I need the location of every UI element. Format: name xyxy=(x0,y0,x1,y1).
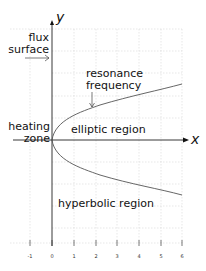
x-axis-label: x xyxy=(191,132,199,146)
x-tick-label: 0 xyxy=(50,253,53,259)
x-tick-label: 3 xyxy=(115,253,118,259)
hyperbolic-region-label: hyperbolic region xyxy=(58,198,154,210)
resonance-label-line2: frequency xyxy=(86,80,141,92)
x-tick-label: -1 xyxy=(28,253,33,259)
x-tick-label: 6 xyxy=(180,253,183,259)
x-tick-label: 5 xyxy=(159,253,162,259)
flux-label-line2: surface xyxy=(4,44,49,56)
x-axis-arrow-icon xyxy=(183,138,189,143)
x-tick-label: 2 xyxy=(94,253,97,259)
diagram-canvas: y x flux surface resonance frequency hea… xyxy=(0,0,206,271)
y-axis-arrow-icon xyxy=(50,20,54,25)
x-tick-label: 1 xyxy=(72,253,75,259)
heating-label-line2: zone xyxy=(2,133,50,145)
x-tick-label: 4 xyxy=(137,253,140,259)
resonance-arrow-icon xyxy=(90,92,95,107)
y-axis-label: y xyxy=(56,10,64,24)
elliptic-region-label: elliptic region xyxy=(71,124,146,136)
